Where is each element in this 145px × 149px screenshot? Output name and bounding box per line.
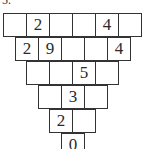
pyramid-row-5: 2 bbox=[49, 109, 96, 132]
pyramid-cell: 5 bbox=[72, 61, 96, 85]
pyramid-cell bbox=[84, 37, 108, 61]
pyramid-cell: 9 bbox=[38, 37, 62, 61]
pyramid-cell bbox=[38, 85, 62, 109]
pyramid-cell: 4 bbox=[95, 13, 119, 37]
pyramid-cell: 3 bbox=[61, 85, 85, 109]
pyramid-cell: 0 bbox=[61, 133, 85, 149]
pyramid-cell bbox=[95, 61, 119, 85]
pyramid-cell: 2 bbox=[49, 109, 73, 133]
pyramid-cell bbox=[72, 109, 96, 133]
pyramid-cell bbox=[26, 61, 50, 85]
pyramid-cell bbox=[118, 13, 142, 37]
pyramid-cell bbox=[72, 13, 96, 37]
pyramid-cell bbox=[84, 85, 108, 109]
pyramid-cell bbox=[49, 13, 73, 37]
pyramid-cell: 4 bbox=[107, 37, 131, 61]
pyramid-cell: 2 bbox=[15, 37, 39, 61]
problem-number-label: 5. bbox=[2, 0, 11, 8]
pyramid-row-2: 294 bbox=[15, 37, 131, 60]
pyramid-row-4: 3 bbox=[38, 85, 108, 108]
pyramid-cell bbox=[3, 13, 27, 37]
pyramid-row-6: 0 bbox=[61, 133, 85, 149]
pyramid-row-1: 24 bbox=[3, 13, 142, 36]
pyramid-row-3: 5 bbox=[26, 61, 119, 84]
pyramid-cell bbox=[49, 61, 73, 85]
pyramid-cell bbox=[61, 37, 85, 61]
pyramid-cell: 2 bbox=[26, 13, 50, 37]
